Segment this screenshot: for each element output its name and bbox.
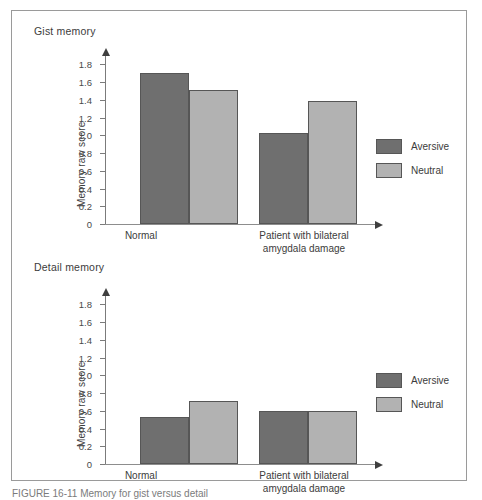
y-tick-label: 1.8	[79, 59, 92, 70]
x-axis-arrow-gist	[375, 221, 383, 229]
y-tick-label: 0.6	[79, 405, 92, 416]
x-category-label-normal-gist: Normal	[75, 229, 207, 242]
chart-title-detail-memory: Detail memory	[34, 261, 104, 273]
legend-item-neutral[interactable]: Neutral	[376, 393, 480, 415]
legend-swatch-neutral-icon	[376, 163, 402, 178]
y-tick-label: 1.2	[79, 352, 92, 363]
y-tick-label: 0.4	[79, 183, 92, 194]
y-tick-label: 1.0	[79, 130, 92, 141]
legend-label-neutral: Neutral	[411, 399, 443, 410]
y-tick-label: 0.4	[79, 423, 92, 434]
plot-area-gist: 0 0.2 0.4 0.6 0.8 1.0 1.2 1.4 1.6 1.8	[105, 55, 377, 225]
y-tick-label: 1.4	[79, 334, 92, 345]
bar-gist-normal-neutral[interactable]	[189, 90, 238, 224]
y-tick-label: 0	[87, 219, 92, 230]
y-axis-line-gist	[105, 55, 106, 225]
legend-swatch-aversive-icon	[376, 139, 402, 154]
y-axis-arrow-gist	[102, 48, 110, 56]
legend-item-aversive[interactable]: Aversive	[376, 135, 480, 157]
y-tick-label: 0.2	[79, 201, 92, 212]
legend-detail: Aversive Neutral	[376, 369, 480, 417]
y-tick-label: 1.8	[79, 299, 92, 310]
y-tick-label: 1.2	[79, 112, 92, 123]
bar-gist-normal-aversive[interactable]	[140, 73, 189, 224]
legend-gist: Aversive Neutral	[376, 135, 480, 183]
y-tick-label: 0.8	[79, 148, 92, 159]
bar-detail-normal-neutral[interactable]	[189, 401, 238, 464]
y-tick-label: 0.8	[79, 388, 92, 399]
x-category-label-normal-detail: Normal	[75, 469, 207, 482]
legend-item-neutral[interactable]: Neutral	[376, 159, 480, 181]
bar-detail-patient-aversive[interactable]	[259, 411, 308, 464]
legend-item-aversive[interactable]: Aversive	[376, 369, 480, 391]
y-tick-label: 1.4	[79, 94, 92, 105]
y-tick-label: 0.2	[79, 441, 92, 452]
legend-swatch-aversive-icon	[376, 373, 402, 388]
x-axis-line-detail	[105, 464, 377, 465]
y-axis-arrow-detail	[102, 288, 110, 296]
legend-swatch-neutral-icon	[376, 397, 402, 412]
legend-label-neutral: Neutral	[411, 165, 443, 176]
y-tick-label: 1.6	[79, 77, 92, 88]
y-tick-label: 1.0	[79, 370, 92, 381]
bar-gist-patient-neutral[interactable]	[308, 101, 357, 224]
chart-title-gist-memory: Gist memory	[34, 25, 96, 37]
bar-detail-normal-aversive[interactable]	[140, 417, 189, 464]
bar-detail-patient-neutral[interactable]	[308, 411, 357, 464]
bar-gist-patient-aversive[interactable]	[259, 133, 308, 224]
legend-label-aversive: Aversive	[411, 141, 449, 152]
plot-area-detail: 0 0.2 0.4 0.6 0.8 1.0 1.2 1.4 1.6 1.8	[105, 295, 377, 465]
y-axis-line-detail	[105, 295, 106, 465]
figure-frame: Gist memory Memory raw score 0 0.2 0.4 0…	[11, 10, 467, 481]
legend-label-aversive: Aversive	[411, 375, 449, 386]
figure-caption: FIGURE 16-11 Memory for gist versus deta…	[12, 488, 472, 499]
x-axis-arrow-detail	[375, 461, 383, 469]
y-tick-label: 0.6	[79, 165, 92, 176]
chart-panel-gist-memory: Gist memory Memory raw score 0 0.2 0.4 0…	[12, 11, 468, 249]
y-tick-label: 1.6	[79, 317, 92, 328]
x-axis-line-gist	[105, 224, 377, 225]
y-tick-label: 0	[87, 459, 92, 470]
